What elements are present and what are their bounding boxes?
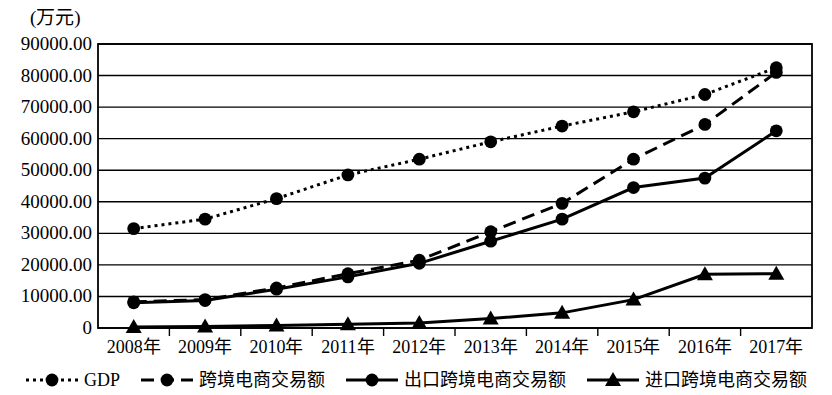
x-axis-tick-label: 2013年 [455,338,526,356]
series-line [134,68,777,229]
data-point-marker-circle [199,294,212,307]
x-axis-tick-label: 2014年 [526,338,597,356]
series-1 [127,61,782,235]
legend-swatch [586,372,640,388]
x-axis-tick-label: 2011年 [312,338,383,356]
data-point-marker-circle [556,213,569,226]
data-point-marker-circle [342,270,355,283]
y-axis-tick-label: 30000.00 [0,223,92,242]
legend-item: GDP [25,371,120,389]
data-point-marker-circle [770,124,783,137]
legend-item: 跨境电商交易额 [140,371,325,389]
data-point-marker-circle [413,153,426,166]
data-point-marker-circle [627,181,640,194]
y-axis-tick-label: 80000.00 [0,66,92,85]
legend-label: GDP [84,371,120,389]
y-axis-tick-label: 20000.00 [0,255,92,274]
data-point-marker-circle [556,120,569,133]
series-line [134,131,777,303]
legend-swatch [140,372,194,388]
data-point-marker-circle [270,283,283,296]
data-point-marker-circle [484,135,497,148]
x-axis-tick-label: 2009年 [169,338,240,356]
data-point-marker-circle [127,222,140,235]
y-axis-tick-label: 0 [0,318,92,337]
chart-legend: GDP跨境电商交易额出口跨境电商交易额进口跨境电商交易额 [0,366,832,394]
data-point-marker-circle [342,169,355,182]
series-2 [127,66,782,308]
x-axis-tick-label: 2015年 [598,338,669,356]
data-point-marker-circle [556,197,569,210]
legend-label: 进口跨境电商交易额 [645,371,807,389]
data-point-marker-circle [699,172,712,185]
y-axis-tick-label: 50000.00 [0,160,92,179]
legend-label: 出口跨境电商交易额 [404,371,566,389]
x-axis-tick-label: 2008年 [98,338,169,356]
data-point-marker-circle [770,66,783,79]
data-point-marker-circle [627,153,640,166]
data-point-marker-circle [46,374,59,387]
x-axis-tick-label: 2010年 [241,338,312,356]
data-point-marker-circle [627,105,640,118]
legend-item: 出口跨境电商交易额 [345,371,566,389]
x-axis-tick-label: 2017年 [741,338,812,356]
data-point-marker-circle [413,257,426,270]
y-axis-tick-label: 10000.00 [0,286,92,305]
y-axis-tick-label: 90000.00 [0,34,92,53]
y-axis-tick-label: 60000.00 [0,129,92,148]
plot-area [0,0,832,395]
data-point-marker-circle [699,88,712,101]
legend-label: 跨境电商交易额 [199,371,325,389]
line-chart: (万元) 90000.0080000.0070000.0060000.00500… [0,0,832,395]
data-point-marker-circle [127,296,140,309]
series-4 [126,266,785,333]
data-point-marker-circle [699,118,712,131]
data-point-marker-circle [366,374,379,387]
legend-item: 进口跨境电商交易额 [586,371,807,389]
x-axis-tick-label: 2016年 [669,338,740,356]
data-point-marker-circle [199,213,212,226]
y-axis-tick-label: 70000.00 [0,97,92,116]
legend-swatch [25,372,79,388]
series-line [134,274,777,327]
legend-swatch [345,372,399,388]
x-axis-tick-label: 2012年 [384,338,455,356]
y-axis-tick-label: 40000.00 [0,192,92,211]
plot-frame [98,44,812,328]
data-point-marker-circle [270,192,283,205]
data-point-marker-circle [484,235,497,248]
data-point-marker-circle [161,374,174,387]
